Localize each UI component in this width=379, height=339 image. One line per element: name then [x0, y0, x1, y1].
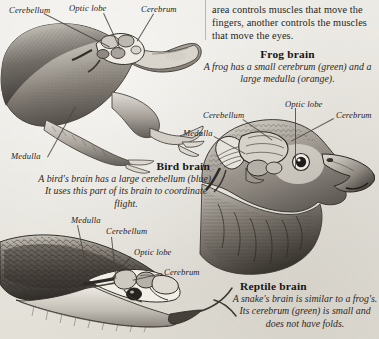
bird-label-optic-lobe: Optic lobe: [285, 99, 323, 109]
bird-caption: Bird brain A bird's brain has a large ce…: [36, 160, 216, 210]
column-rule: [205, 0, 206, 40]
snake-illustration: [0, 228, 240, 339]
textbook-page: Cerebellum Optic lobe Cerebrum Medulla: [0, 0, 379, 339]
frog-label-cerebellum: Cerebellum: [9, 5, 50, 15]
column-paragraph: area controls muscles that move the fing…: [212, 3, 378, 43]
bird-label-cerebellum: Cerebellum: [203, 110, 244, 120]
frog-label-optic-lobe: Optic lobe: [69, 3, 107, 13]
reptile-caption: Reptile brain A snake's brain is similar…: [232, 280, 378, 330]
frog-label-cerebrum: Cerebrum: [141, 4, 177, 14]
snake-label-cerebrum: Cerebrum: [164, 267, 200, 277]
snake-label-medulla: Medulla: [71, 215, 101, 225]
frog-caption: Frog brain A frog has a small cerebrum (…: [196, 48, 379, 86]
frog-caption-title: Frog brain: [196, 48, 379, 60]
bird-caption-title: Bird brain: [36, 160, 216, 172]
snake-label-cerebellum: Cerebellum: [106, 226, 147, 236]
forked-tongue: [198, 288, 236, 316]
frog-caption-body: A frog has a small cerebrum (green) and …: [196, 61, 379, 86]
reptile-caption-body: A snake's brain is similar to a frog's. …: [232, 293, 378, 330]
bird-caption-body: A bird's brain has a large cerebellum (b…: [36, 173, 216, 210]
bird-label-cerebrum: Cerebrum: [336, 110, 372, 120]
bird-label-medulla: Medulla: [183, 128, 213, 138]
snake-label-optic-lobe: Optic lobe: [134, 247, 172, 257]
reptile-caption-title: Reptile brain: [232, 280, 378, 292]
